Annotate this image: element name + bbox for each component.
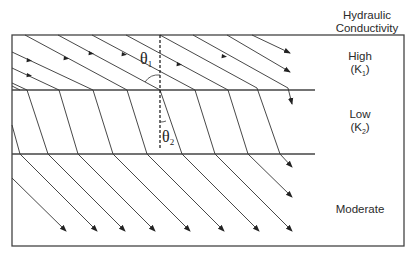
theta1-arc	[145, 75, 160, 82]
moderate-name: Moderate	[320, 203, 400, 216]
header-label: Hydraulic Conductivity	[320, 9, 414, 35]
high-k: (K1)	[325, 63, 395, 80]
low-k: (K2)	[325, 121, 395, 138]
theta2-subscript: 2	[170, 137, 175, 147]
high-name: High	[325, 50, 395, 63]
header-line2: Conductivity	[320, 22, 414, 35]
low-name: Low	[325, 108, 395, 121]
layer-label-low: Low (K2)	[325, 108, 395, 138]
theta2-label: θ2	[162, 128, 174, 147]
theta1-subscript: 1	[148, 59, 153, 69]
layer-label-high: High (K1)	[325, 50, 395, 80]
theta2-symbol: θ	[162, 128, 170, 145]
layer-label-moderate: Moderate	[320, 203, 400, 216]
theta2-arc	[160, 121, 166, 122]
header-line1: Hydraulic	[320, 9, 414, 22]
theta1-symbol: θ	[140, 50, 148, 67]
theta1-label: θ1	[140, 50, 152, 69]
